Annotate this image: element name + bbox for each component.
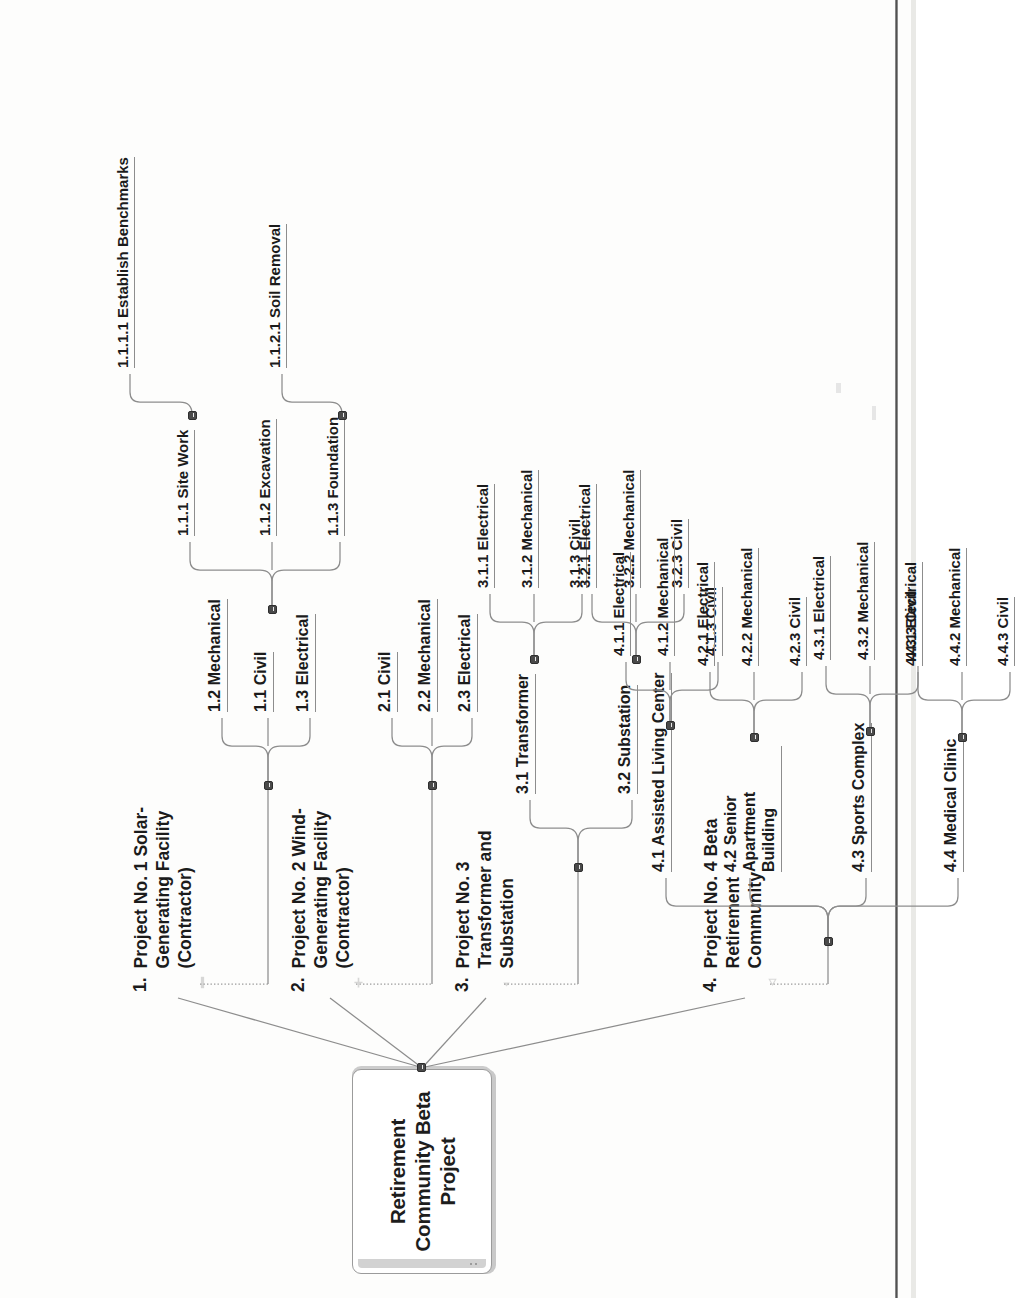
branch-3-title: Project No. 3 Transformer and Substation	[452, 796, 518, 968]
branch-2-number: 2.	[288, 977, 309, 992]
topic-4-1-connectors	[0, 998, 150, 1298]
branch-2-marker-icon	[352, 976, 365, 989]
topic-3-2[interactable]: 3.2 Substation	[616, 685, 638, 794]
branch-1-number: 1.	[130, 977, 151, 992]
root-accent-bar	[358, 1259, 486, 1268]
topic-4-1-1[interactable]: 4.1.1 Electrical	[610, 552, 631, 656]
topic-4-4-collapse-knob[interactable]	[958, 733, 967, 742]
root-collapse-knob[interactable]	[417, 1063, 426, 1072]
topic-1-1-3[interactable]: 1.1.3 Foundation	[324, 417, 345, 536]
topic-1-3[interactable]: 1.3 Electrical	[294, 614, 316, 712]
branch-1-marker-icon	[196, 976, 209, 989]
topic-4-2-2[interactable]: 4.2.2 Mechanical	[738, 548, 759, 666]
topic-3-1-connectors	[0, 998, 150, 1298]
topic-4-4-3[interactable]: 4.4.3 Civil	[994, 597, 1015, 666]
topic-4-2-collapse-knob[interactable]	[750, 733, 759, 742]
topic-1-1-collapse-knob[interactable]	[268, 605, 277, 614]
topic-4-1[interactable]: 4.1 Assisted Living Center	[650, 673, 672, 872]
branch-3-number: 3.	[452, 977, 473, 992]
root-handle-dots	[470, 1261, 482, 1265]
topic-1-1-2-collapse-knob[interactable]	[338, 411, 347, 420]
topic-1-1-1-collapse-knob[interactable]	[188, 411, 197, 420]
topic-4-3-collapse-knob[interactable]	[866, 727, 875, 736]
branch-1-label[interactable]: 1. Project No. 1 Solar-Generating Facili…	[130, 796, 196, 992]
branch-4-marker-icon	[766, 976, 779, 989]
topic-4-2-3[interactable]: 4.2.3 Civil	[786, 597, 807, 666]
topic-4-3-connectors	[0, 998, 150, 1298]
branch-2-collapse-knob[interactable]	[428, 781, 437, 790]
topic-1-1[interactable]: 1.1 Civil	[252, 652, 274, 712]
topic-1-1-2[interactable]: 1.1.2 Excavation	[256, 419, 277, 536]
root-label: Retirement Community Beta Project	[385, 1082, 460, 1261]
topic-4-2-1[interactable]: 4.2.1 Electrical	[694, 562, 715, 666]
topic-4-3-2[interactable]: 4.3.2 Mechanical	[854, 542, 875, 660]
branch-1-collapse-knob[interactable]	[264, 781, 273, 790]
topic-1-2[interactable]: 1.2 Mechanical	[206, 599, 228, 712]
topic-4-4-2[interactable]: 4.4.2 Mechanical	[946, 548, 967, 666]
topic-3-1-collapse-knob[interactable]	[530, 655, 539, 664]
branch-3-marker-icon	[500, 976, 513, 989]
topic-3-1-2[interactable]: 3.1.2 Mechanical	[518, 470, 539, 588]
branch-2-title: Project No. 2 Wind-Generating Facility (…	[288, 796, 354, 968]
topic-3-2-connectors	[0, 998, 150, 1298]
topic-1-1-1[interactable]: 1.1.1 Site Work	[174, 430, 195, 536]
branch-1-title: Project No. 1 Solar-Generating Facility …	[130, 796, 196, 968]
branch-4-number: 4.	[700, 977, 721, 992]
topic-4-4[interactable]: 4.4 Medical Clinic	[942, 739, 964, 872]
topic-1-1-1-1[interactable]: 1.1.1.1 Establish Benchmarks	[114, 157, 135, 368]
topic-4-4-1[interactable]: 4.4.1 Electrical	[902, 562, 923, 666]
topic-4-3[interactable]: 4.3 Sports Complex	[850, 723, 872, 872]
branch-3-connectors	[0, 998, 150, 1298]
branch-2-connectors	[0, 998, 150, 1298]
branch-3-label[interactable]: 3. Project No. 3 Transformer and Substat…	[452, 796, 518, 992]
topic-4-4-connectors	[0, 998, 150, 1298]
topic-3-1[interactable]: 3.1 Transformer	[514, 674, 536, 794]
topic-3-2-collapse-knob[interactable]	[632, 655, 641, 664]
topic-4-2[interactable]: 4.2 Senior Apartment Building	[722, 746, 782, 872]
topic-2-3[interactable]: 2.3 Electrical	[456, 614, 478, 712]
topic-4-3-1[interactable]: 4.3.1 Electrical	[810, 556, 831, 660]
branch-4-connectors	[0, 998, 150, 1298]
topic-3-1-1[interactable]: 3.1.1 Electrical	[474, 484, 495, 588]
scan-speck	[872, 406, 876, 420]
scan-speck	[836, 383, 841, 393]
topic-1-1-2-1[interactable]: 1.1.2.1 Soil Removal	[266, 224, 287, 368]
branch-1-connectors	[0, 998, 150, 1298]
topic-4-1-collapse-knob[interactable]	[666, 721, 675, 730]
topic-3-2-1[interactable]: 3.2.1 Electrical	[576, 484, 597, 588]
topic-1-1-1-connectors	[0, 998, 150, 1298]
branch-4-collapse-knob[interactable]	[824, 937, 833, 946]
root-node[interactable]: Retirement Community Beta Project	[352, 1069, 492, 1274]
topic-1-1-connectors	[0, 998, 150, 1298]
topic-2-1[interactable]: 2.1 Civil	[376, 652, 398, 712]
topic-4-1-2[interactable]: 4.1.2 Mechanical	[654, 538, 675, 656]
topic-2-2[interactable]: 2.2 Mechanical	[416, 599, 438, 712]
topic-4-2-connectors	[0, 998, 150, 1298]
branch-3-collapse-knob[interactable]	[574, 863, 583, 872]
branch-2-label[interactable]: 2. Project No. 2 Wind-Generating Facilit…	[288, 796, 354, 992]
